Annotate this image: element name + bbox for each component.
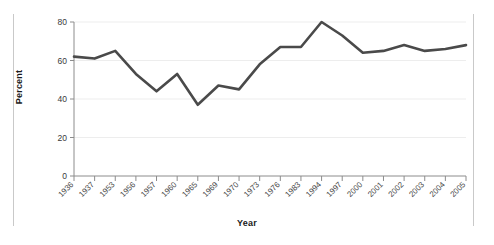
y-tick-labels: 020406080 (58, 17, 68, 181)
x-tick-label: 1937 (77, 180, 96, 199)
x-tick-label: 1969 (201, 180, 220, 199)
x-tick-label: 2005 (448, 180, 467, 199)
x-tick-labels: 1936193719531956195719601965196919701973… (56, 180, 467, 199)
x-tick-label: 1994 (304, 180, 323, 199)
x-tick-label: 1976 (263, 180, 282, 199)
x-tick-label: 1965 (180, 180, 199, 199)
x-tick-label: 1983 (283, 180, 302, 199)
x-tick-label: 1973 (242, 180, 261, 199)
y-tick-label: 20 (58, 133, 68, 143)
x-tick-label: 1953 (98, 180, 117, 199)
y-tick-label: 0 (62, 171, 67, 181)
x-tick-label: 2000 (345, 180, 364, 199)
x-tick-label: 1956 (118, 180, 137, 199)
x-tick-label: 1960 (160, 180, 179, 199)
x-axis (74, 176, 466, 181)
gridlines (74, 22, 466, 138)
y-axis (70, 22, 74, 176)
x-tick-label: 1936 (56, 180, 75, 199)
chart-figure: Percent 020406080 1936193719531956195719… (0, 0, 494, 245)
x-tick-label: 2001 (366, 180, 385, 199)
y-tick-label: 80 (58, 17, 68, 27)
x-tick-label: 2004 (428, 180, 447, 199)
x-tick-label: 2003 (407, 180, 426, 199)
x-axis-title: Year (0, 218, 494, 228)
x-tick-label: 1997 (325, 180, 344, 199)
series-line-percent (74, 22, 466, 105)
x-tick-label: 2002 (387, 180, 406, 199)
line-chart-plot: 020406080 193619371953195619571960196519… (0, 0, 494, 245)
y-tick-label: 40 (58, 94, 68, 104)
y-tick-label: 60 (58, 56, 68, 66)
data-series-percent (74, 22, 466, 105)
x-tick-label: 1957 (139, 180, 158, 199)
x-tick-label: 1970 (222, 180, 241, 199)
